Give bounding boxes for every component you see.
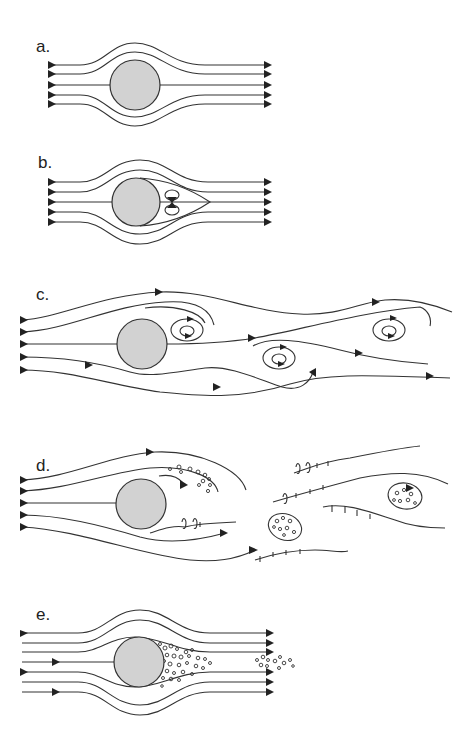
wake-bubbles-upper (169, 465, 212, 493)
downstream-wake-bubbles (256, 655, 295, 669)
cylinder-b (112, 178, 160, 226)
panel-d: d. (20, 446, 448, 562)
cylinder-a (110, 60, 160, 110)
flow-diagram: a. b. (0, 0, 471, 738)
detached-eddies (265, 480, 424, 545)
panel-e-label: e. (36, 605, 50, 624)
panel-b: b. (38, 153, 272, 244)
panel-b-label: b. (38, 153, 52, 172)
panel-c-streamlines (22, 292, 452, 396)
cylinder-e (114, 637, 164, 687)
panel-c: c. (20, 285, 452, 396)
panel-c-label: c. (36, 285, 49, 304)
cylinder-c (117, 319, 167, 369)
vortex-street (171, 315, 405, 369)
panel-a: a. (36, 37, 272, 126)
panel-d-label: d. (36, 456, 50, 475)
cylinder-d (116, 479, 166, 529)
panel-e: e. (20, 605, 294, 715)
panel-a-label: a. (36, 37, 50, 56)
turbulent-eddies (150, 446, 448, 562)
